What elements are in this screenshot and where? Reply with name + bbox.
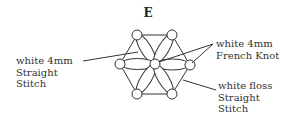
label-floss-straight-stitch: white floss Straight Stitch (218, 80, 272, 115)
label-french-knot: white 4mm French Knot (216, 38, 279, 61)
label-straight-stitch-4mm: white 4mm Straight Stitch (16, 55, 73, 90)
leader-knot-right (192, 44, 213, 63)
leader-floss (183, 80, 216, 90)
